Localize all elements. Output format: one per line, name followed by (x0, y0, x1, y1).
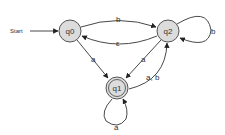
transition-q1-self: a (104, 99, 127, 132)
state-diagram: Start b ε a a a, b b a q0 q (0, 0, 225, 135)
transition-q2-self: b (177, 16, 216, 42)
transition-label: a (141, 55, 146, 64)
state-label: q1 (113, 84, 122, 93)
transition-label: b (211, 27, 216, 36)
state-q2: q2 (157, 20, 179, 42)
transition-q1-q2: a, b (129, 43, 167, 89)
transition-label: ε (116, 39, 120, 48)
start-arrow: Start (10, 28, 58, 34)
state-label: q0 (66, 27, 75, 36)
transition-q0-q1: a (77, 40, 108, 78)
state-q0: q0 (59, 20, 81, 42)
state-label: q2 (164, 27, 173, 36)
transition-q2-q0: ε (82, 36, 157, 48)
transition-label: a (91, 55, 96, 64)
state-q1-accepting: q1 (106, 77, 128, 99)
transition-label: a, b (146, 73, 160, 82)
transition-label: b (116, 15, 121, 24)
transition-label: a (114, 123, 119, 132)
start-label: Start (10, 28, 23, 34)
transition-q0-q2: b (81, 15, 156, 27)
